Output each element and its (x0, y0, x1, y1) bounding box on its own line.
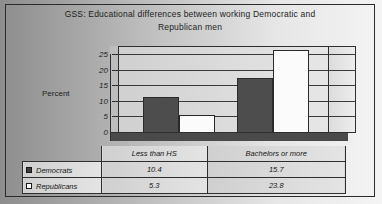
y-axis-back-line (118, 46, 119, 133)
right-wall-gridline-15 (329, 85, 355, 86)
bar-democrats-bachelors-or-more (237, 78, 273, 133)
plot-right-wall (328, 46, 356, 133)
table-row-republicans: Republicans 5.3 23.8 (23, 178, 346, 194)
table-corner-cell (23, 146, 102, 162)
category-header-bachelors-or-more: Bachelors or more (207, 146, 345, 162)
plot-area (110, 46, 356, 141)
y-tick-label-0: 0 (88, 128, 108, 137)
bar-group-container (119, 46, 328, 133)
data-table: Less than HS Bachelors or more Democrats… (22, 146, 346, 194)
chart-title-line-1: GSS: Educational differences between wor… (40, 8, 340, 21)
bar-republicans-less-than-hs (179, 115, 215, 133)
value-democrats-less-than-hs: 10.4 (102, 162, 208, 178)
chart-title: GSS: Educational differences between wor… (40, 8, 340, 34)
legend-swatch-republicans-icon (26, 183, 32, 189)
value-republicans-less-than-hs: 5.3 (102, 178, 208, 194)
table-row-categories: Less than HS Bachelors or more (23, 146, 346, 162)
y-tick-label-25: 25 (88, 50, 108, 59)
category-header-less-than-hs: Less than HS (102, 146, 208, 162)
chart-title-line-2: Republican men (40, 21, 340, 34)
bar-democrats-less-than-hs (143, 97, 179, 133)
right-wall-gridline-25 (329, 54, 355, 55)
table-row-democrats: Democrats 10.4 15.7 (23, 162, 346, 178)
y-tick-mark-15 (112, 85, 119, 86)
plot-baseline (110, 132, 356, 133)
y-tick-mark-10 (112, 101, 119, 102)
y-tick-label-20: 20 (88, 65, 108, 74)
y-axis-title: Percent (42, 89, 70, 98)
y-tick-mark-20 (112, 70, 119, 71)
y-tick-label-10: 10 (88, 96, 108, 105)
y-tick-mark-25 (112, 54, 119, 55)
legend-item-republicans: Republicans (23, 178, 102, 194)
right-wall-gridline-5 (329, 116, 355, 117)
y-tick-mark-0 (112, 132, 119, 133)
y-axis-front-line (110, 54, 111, 141)
chart-screenshot: GSS: Educational differences between wor… (0, 0, 382, 204)
y-tick-label-15: 15 (88, 81, 108, 90)
legend-swatch-democrats-icon (26, 167, 32, 173)
right-wall-gridline-10 (329, 101, 355, 102)
value-democrats-bachelors-or-more: 15.7 (207, 162, 345, 178)
y-tick-mark-5 (112, 116, 119, 117)
right-wall-gridline-20 (329, 70, 355, 71)
legend-label-democrats: Democrats (36, 165, 72, 174)
value-republicans-bachelors-or-more: 23.8 (207, 178, 345, 194)
y-tick-label-5: 5 (88, 112, 108, 121)
legend-item-democrats: Democrats (23, 162, 102, 178)
legend-label-republicans: Republicans (36, 181, 77, 190)
plot-floor (110, 133, 348, 141)
bar-republicans-bachelors-or-more (273, 50, 309, 133)
y-axis-tick-labels: 25 20 15 10 5 0 (88, 46, 108, 141)
